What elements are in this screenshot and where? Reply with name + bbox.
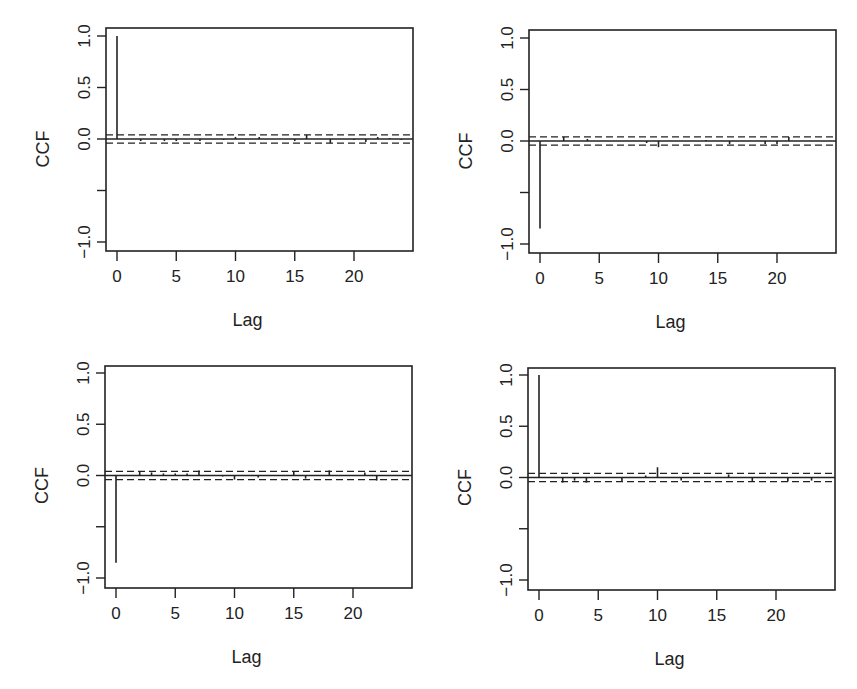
x-tick-label: 20 [767,606,786,625]
x-tick-label: 15 [285,267,304,286]
y-tick-label: 1.0 [498,26,517,50]
x-axis-label: Lag [232,310,262,330]
x-tick-label: 10 [226,267,245,286]
y-tick-label: −1.0 [74,561,93,595]
y-tick-label: 1.0 [74,361,93,385]
ccf-panel-bottom-right: −1.00.00.51.005101520LagCCF [455,363,835,669]
x-axis-label: Lag [654,649,684,669]
x-tick-label: 0 [534,606,543,625]
x-tick-label: 10 [225,604,244,623]
y-tick-label: −1.0 [75,225,94,259]
y-tick-label: 0.0 [497,466,516,490]
x-tick-label: 10 [649,269,668,288]
x-tick-label: 20 [344,604,363,623]
y-tick-label: 0.5 [74,412,93,436]
y-tick-label: 0.0 [75,127,94,151]
x-tick-label: 5 [594,606,603,625]
y-tick-label: 1.0 [75,24,94,48]
y-axis-label: CCF [456,133,476,170]
y-tick-label: 0.5 [497,414,516,438]
x-tick-label: 15 [284,604,303,623]
x-tick-label: 0 [535,269,544,288]
y-tick-label: −1.0 [497,563,516,597]
x-tick-label: 0 [112,267,121,286]
x-tick-label: 5 [172,267,181,286]
y-axis-label: CCF [32,467,52,504]
x-tick-label: 20 [345,267,364,286]
y-tick-label: 0.5 [75,76,94,100]
y-axis-label: CCF [33,131,53,168]
y-tick-label: 0.5 [498,78,517,102]
y-tick-label: 0.0 [498,129,517,153]
ccf-panel-bottom-left: −1.00.00.51.005101520LagCCF [32,361,412,667]
y-axis-label: CCF [455,469,475,506]
x-tick-label: 5 [595,269,604,288]
y-tick-label: 1.0 [497,363,516,387]
x-tick-label: 0 [111,604,120,623]
x-tick-label: 15 [708,269,727,288]
y-tick-label: −1.0 [498,227,517,261]
x-tick-label: 15 [707,606,726,625]
ccf-panel-top-left: −1.00.00.51.005101520LagCCF [33,24,413,330]
x-tick-label: 5 [171,604,180,623]
ccf-figure: −1.00.00.51.005101520LagCCF −1.00.00.51.… [0,0,857,689]
x-axis-label: Lag [655,312,685,332]
ccf-panel-top-right: −1.00.00.51.005101520LagCCF [456,26,836,332]
y-tick-label: 0.0 [74,464,93,488]
x-tick-label: 10 [648,606,667,625]
x-axis-label: Lag [231,647,261,667]
x-tick-label: 20 [768,269,787,288]
